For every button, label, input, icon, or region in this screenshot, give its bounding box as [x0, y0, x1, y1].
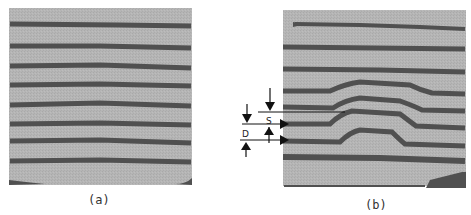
- panel-b-caption: (b): [365, 198, 387, 212]
- d-dimension-label: D: [242, 129, 249, 139]
- panel-a: [9, 8, 192, 185]
- arrow-up-s: [264, 127, 274, 135]
- arrow-down-s: [242, 114, 252, 123]
- figure-canvas: S D (a) (b): [0, 0, 471, 215]
- arrow-up-d: [241, 142, 251, 150]
- panel-a-caption: (a): [88, 193, 110, 207]
- arrow-down-top: [265, 102, 275, 111]
- panel-b: [283, 10, 466, 188]
- s-dimension-label: S: [266, 116, 272, 126]
